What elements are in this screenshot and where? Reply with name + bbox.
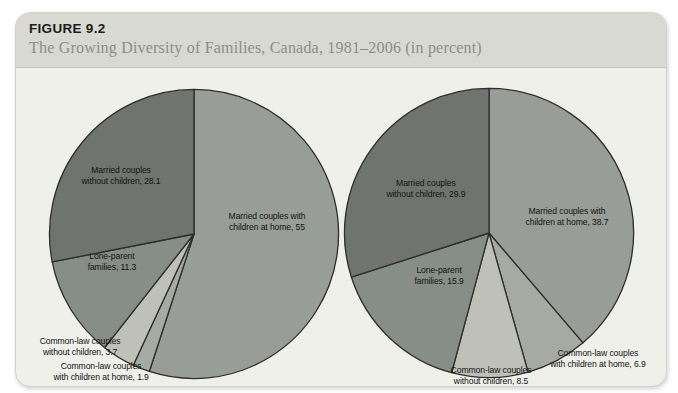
- figure-panel: FIGURE 9.2 The Growing Diversity of Fami…: [15, 12, 667, 387]
- pie-chart-2006: Married couples without children, 29.9 M…: [343, 87, 635, 379]
- slice-label-lone-parent-families: Lone-parent families, 11.3: [88, 251, 137, 274]
- figure-header: FIGURE 9.2 The Growing Diversity of Fami…: [16, 13, 666, 68]
- slice-label-married-without-children: Married couples without children, 28.1: [81, 165, 160, 188]
- charts-area: Married couples without children, 28.1 M…: [16, 68, 666, 387]
- slice-label-common-law-with-children: Common-law couples with children at home…: [550, 348, 645, 371]
- slice-label-common-law-without-children: Common-law couples without children, 3.7: [40, 336, 121, 359]
- pie-chart-1981: Married couples without children, 28.1 M…: [48, 88, 340, 380]
- slice-label-lone-parent-families: Lone-parent families, 15.9: [414, 265, 463, 288]
- figure-title: The Growing Diversity of Families, Canad…: [29, 39, 666, 57]
- slice-label-married-without-children: Married couples without children, 29.9: [386, 178, 465, 201]
- figure-number: FIGURE 9.2: [29, 21, 666, 36]
- slice-label-common-law-without-children: Common-law couples without children, 8.5: [451, 365, 532, 387]
- pie-2006-svg: [343, 87, 635, 379]
- slice-label-married-with-children: Married couples with children at home, 3…: [526, 206, 609, 229]
- slice-label-common-law-with-children: Common-law couples with children at home…: [53, 361, 148, 384]
- slice-label-married-with-children: Married couples with children at home, 5…: [229, 211, 306, 234]
